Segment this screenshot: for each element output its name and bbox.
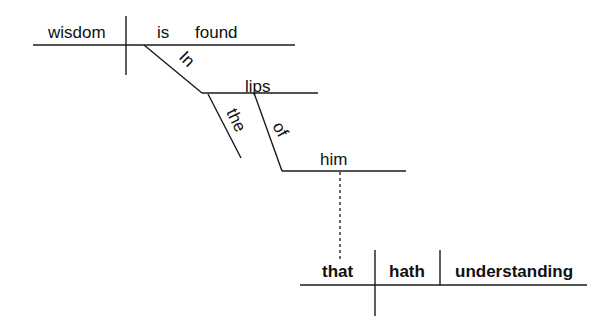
- relative-object-word: understanding: [455, 262, 573, 281]
- verb-aux-word: is: [157, 23, 169, 42]
- sentence-diagram: wisdom is found In lips the of him that …: [0, 0, 615, 336]
- verb-word: found: [195, 23, 238, 42]
- subject-word: wisdom: [47, 23, 106, 42]
- object-lips-word: lips: [245, 77, 271, 96]
- preposition-in-word: In: [175, 47, 198, 70]
- preposition-of-word: of: [269, 119, 293, 141]
- relative-subject-word: that: [322, 262, 354, 281]
- object-him-word: him: [320, 150, 347, 169]
- relative-verb-word: hath: [389, 262, 425, 281]
